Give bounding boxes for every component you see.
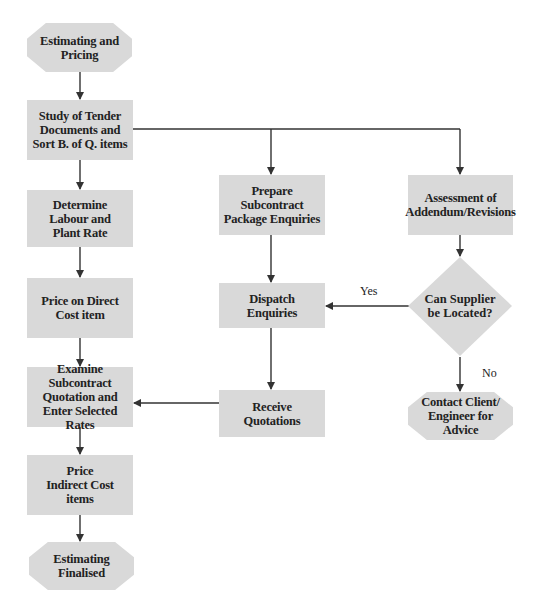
node-prepare-subcontract-enquiries: Prepare Subcontract Package Enquiries [219,175,325,235]
node-price-direct-cost: Price on Direct Cost item [27,278,133,338]
edge-label-no: No [482,366,497,381]
node-start: Estimating and Pricing [27,23,132,72]
edge-label-yes: Yes [360,284,377,299]
node-study-tender-documents: Study of Tender Documents and Sort B. of… [27,100,133,160]
node-end: Estimating Finalised [29,542,134,590]
node-contact-client-engineer: Contact Client/ Engineer for Advice [408,392,513,440]
node-dispatch-enquiries: Dispatch Enquiries [219,283,325,328]
node-determine-labour-plant-rate: Determine Labour and Plant Rate [27,190,133,247]
node-assessment-addendum-revisions: Assessment of Addendum/Revisions [408,175,513,235]
node-receive-quotations: Receive Quotations [219,390,325,437]
node-examine-subcontract-quotation: Examine Subcontract Quotation and Enter … [27,367,133,427]
node-decision-supplier-located: Can Supplier be Located? [418,286,502,326]
node-price-indirect-cost: Price Indirect Cost items [27,455,133,515]
